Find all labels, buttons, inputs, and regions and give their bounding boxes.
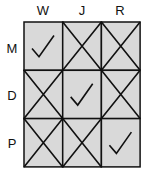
grid-cell-d-j [63,70,102,118]
grid-cell-p-r [101,119,140,167]
grid-cell-m-w [24,22,63,70]
logic-grid [0,0,150,178]
